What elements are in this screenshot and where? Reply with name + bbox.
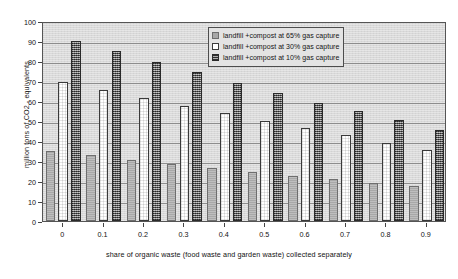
bar-group	[366, 23, 406, 221]
x-axis-tick-mark	[224, 223, 225, 227]
bar	[341, 135, 351, 221]
bar-group	[164, 23, 204, 221]
y-axis-tick-mark	[38, 142, 42, 143]
y-axis-tick-label: 70	[6, 78, 36, 87]
y-axis-tick-label: 80	[6, 58, 36, 67]
x-axis-title: share of organic waste (food waste and g…	[0, 250, 458, 259]
x-axis-tick-mark	[62, 223, 63, 227]
y-axis-tick-label: 100	[6, 18, 36, 27]
bar	[112, 51, 122, 221]
x-axis-tick-label: 0.6	[285, 230, 325, 239]
legend-item-label: landfill +compost at 65% gas capture	[223, 32, 339, 39]
bar	[354, 111, 364, 221]
y-axis-tick-mark	[38, 62, 42, 63]
bar	[192, 72, 202, 221]
bar	[233, 83, 243, 221]
bar	[288, 176, 298, 221]
x-axis-tick-mark	[183, 223, 184, 227]
y-axis-tick-mark	[38, 102, 42, 103]
x-axis-tick-mark	[305, 223, 306, 227]
y-axis-tick-mark	[38, 202, 42, 203]
x-axis-tick-label: 0	[42, 230, 82, 239]
bar	[152, 62, 162, 221]
bar	[86, 155, 96, 221]
legend-swatch-icon	[212, 43, 219, 50]
bar	[99, 90, 109, 221]
bar	[394, 120, 404, 221]
y-axis-tick-label: 20	[6, 178, 36, 187]
bar	[71, 41, 81, 221]
x-axis-tick-mark	[264, 223, 265, 227]
x-axis-tick-label: 0.4	[204, 230, 244, 239]
y-axis-tick-mark	[38, 22, 42, 23]
bar	[46, 151, 56, 221]
y-axis-tick-mark	[38, 82, 42, 83]
bar	[369, 183, 379, 221]
y-axis-tick-label: 10	[6, 198, 36, 207]
legend-item: landfill +compost at 10% gas capture	[212, 52, 339, 63]
bar	[273, 93, 283, 221]
legend-item-label: landfill +compost at 30% gas capture	[223, 43, 339, 50]
legend-item-label: landfill +compost at 10% gas capture	[223, 54, 339, 61]
x-axis-tick-label: 0.9	[406, 230, 446, 239]
x-axis-tick-mark	[143, 223, 144, 227]
bar-chart: million tons of CO2 - equivalents 010203…	[0, 0, 458, 279]
bar	[58, 82, 68, 221]
y-axis-tick-label: 0	[6, 218, 36, 227]
bar	[301, 128, 311, 221]
bar	[180, 106, 190, 221]
bar	[409, 186, 419, 221]
bar-group	[83, 23, 123, 221]
bar	[139, 98, 149, 221]
x-axis-tick-label: 0.1	[83, 230, 123, 239]
x-axis-tick-label: 0.5	[244, 230, 284, 239]
y-axis-tick-label: 90	[6, 38, 36, 47]
bar	[207, 168, 217, 221]
x-axis-tick-mark	[345, 223, 346, 227]
y-axis-tick-mark	[38, 162, 42, 163]
y-axis-tick-label: 30	[6, 158, 36, 167]
x-axis-tick-mark	[426, 223, 427, 227]
bar	[260, 121, 270, 221]
bar	[167, 164, 177, 221]
y-axis-tick-mark	[38, 42, 42, 43]
bar	[220, 113, 230, 221]
y-axis-tick-label: 60	[6, 98, 36, 107]
y-axis-tick-label: 50	[6, 118, 36, 127]
y-axis-tick-mark	[38, 122, 42, 123]
x-axis-tick-label: 0.3	[163, 230, 203, 239]
bar-group	[43, 23, 83, 221]
legend-swatch-icon	[212, 32, 219, 39]
y-axis-tick-label: 40	[6, 138, 36, 147]
x-axis-tick-label: 0.2	[123, 230, 163, 239]
y-axis-tick-mark	[38, 222, 42, 223]
bar	[382, 143, 392, 221]
legend-item: landfill +compost at 65% gas capture	[212, 30, 339, 41]
x-axis-tick-mark	[385, 223, 386, 227]
bar	[329, 179, 339, 221]
x-axis-tick-label: 0.8	[365, 230, 405, 239]
bar-group	[407, 23, 447, 221]
x-axis-tick-label: 0.7	[325, 230, 365, 239]
chart-legend: landfill +compost at 65% gas capture lan…	[208, 27, 344, 67]
legend-swatch-icon	[212, 54, 219, 61]
legend-item: landfill +compost at 30% gas capture	[212, 41, 339, 52]
bar	[248, 172, 258, 221]
x-axis-tick-mark	[103, 223, 104, 227]
bar	[435, 130, 445, 221]
y-axis-tick-mark	[38, 182, 42, 183]
bar-group	[124, 23, 164, 221]
bar	[314, 103, 324, 221]
bar	[422, 150, 432, 221]
bar	[127, 160, 137, 221]
